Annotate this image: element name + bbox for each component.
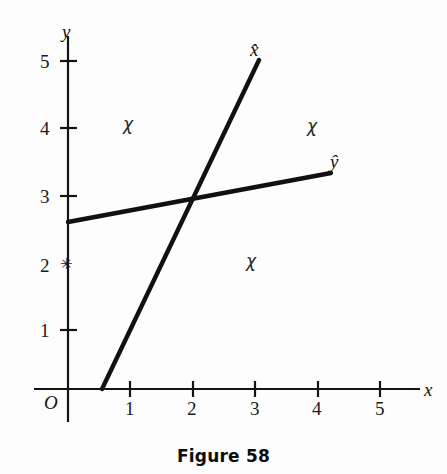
x-tick-label-5: 5 [375, 399, 385, 418]
chi-label-upper-left: χ [123, 116, 133, 133]
x-tick-label-3: 3 [250, 399, 260, 418]
y-tick-label-5: 5 [40, 52, 50, 71]
figure-caption: Figure 58 [0, 446, 447, 466]
star-mark-icon: ✳ [60, 257, 73, 272]
x-axis-label: x [424, 380, 432, 399]
chi-label-upper-right: χ [307, 118, 317, 135]
x-hat-line [102, 60, 259, 389]
origin-label: O [44, 393, 58, 412]
y-tick-label-2: 2 [40, 256, 50, 275]
y-axis-label: y [62, 22, 70, 41]
y-tick-label-3: 3 [40, 187, 50, 206]
y-hat-label: ŷ [330, 152, 338, 171]
chi-label-lower-middle: χ [246, 253, 256, 270]
y-tick-label-4: 4 [40, 119, 50, 138]
x-hat-label: x̂ [250, 40, 258, 59]
x-tick-label-1: 1 [125, 399, 135, 418]
figure-container: y x O 1 2 3 4 5 1 2 3 4 5 ✳ x̂ ŷ χ χ χ … [0, 0, 447, 474]
x-tick-label-4: 4 [312, 399, 322, 418]
y-tick-label-1: 1 [40, 321, 50, 340]
x-tick-label-2: 2 [187, 399, 197, 418]
